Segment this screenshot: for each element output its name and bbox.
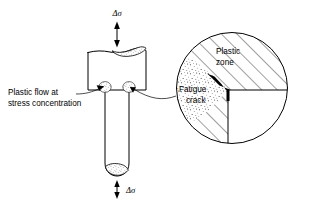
fatigue-crack-figure: Δσ Δσ <box>0 0 310 206</box>
specimen-head <box>88 47 146 90</box>
fatigue-crack-label-line1: Fatigue <box>179 85 207 94</box>
plastic-zone-label-line1: Plastic <box>216 47 240 56</box>
top-stress-label: Δσ <box>111 8 122 18</box>
stress-concentration-zones <box>99 82 135 93</box>
specimen-shaft <box>105 90 129 176</box>
figure-canvas: Δσ Δσ <box>0 0 310 206</box>
plastic-zone-label-line2: zone <box>216 58 234 67</box>
bottom-stress-label: Δσ <box>125 185 136 195</box>
plastic-flow-label-line1: Plastic flow at <box>8 88 59 97</box>
plastic-flow-label-line2: stress concentration <box>8 99 82 108</box>
fatigue-crack-label-line2: crack <box>186 96 206 105</box>
top-stress-arrow <box>114 22 120 48</box>
plastic-flow-leader-right <box>130 87 176 99</box>
bottom-stress-arrow <box>114 180 119 199</box>
notch-void <box>228 90 292 152</box>
top-fracture-lip <box>112 47 146 57</box>
